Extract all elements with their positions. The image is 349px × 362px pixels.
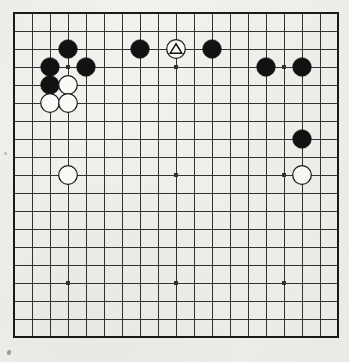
white-stone[interactable] [59, 166, 78, 185]
go-board[interactable] [0, 0, 349, 362]
stone-black-b-c16-r7[interactable] [293, 130, 312, 149]
black-stone[interactable] [203, 40, 222, 59]
stone-white-w-c16-r9[interactable] [293, 166, 312, 185]
black-stone[interactable] [41, 76, 60, 95]
white-stone[interactable] [41, 94, 60, 113]
black-stone[interactable] [293, 130, 312, 149]
stone-black-b-c14-r3[interactable] [257, 58, 276, 77]
stone-white-w-c3-r5[interactable] [59, 94, 78, 113]
black-stone[interactable] [257, 58, 276, 77]
black-stone[interactable] [131, 40, 150, 59]
stone-white-w-c3-r4[interactable] [59, 76, 78, 95]
stone-black-b-c2-r3[interactable] [41, 58, 60, 77]
star-point [174, 65, 178, 69]
go-board-canvas[interactable] [0, 0, 349, 362]
white-stone[interactable] [293, 166, 312, 185]
stone-black-b-c4-r3[interactable] [77, 58, 96, 77]
black-stone[interactable] [293, 58, 312, 77]
star-point [282, 281, 286, 285]
stone-black-b-c2-r4[interactable] [41, 76, 60, 95]
star-point [66, 65, 70, 69]
stone-black-b-c16-r3[interactable] [293, 58, 312, 77]
star-point [174, 281, 178, 285]
stone-white-w-c9-r2[interactable] [167, 40, 186, 59]
stone-white-w-c2-r5[interactable] [41, 94, 60, 113]
diagram-page [0, 0, 349, 362]
black-stone[interactable] [41, 58, 60, 77]
star-point [282, 173, 286, 177]
black-stone[interactable] [77, 58, 96, 77]
stone-white-w-c3-r9[interactable] [59, 166, 78, 185]
white-stone[interactable] [59, 94, 78, 113]
stone-black-b-c11-r2[interactable] [203, 40, 222, 59]
white-stone[interactable] [59, 76, 78, 95]
stone-black-b-c7-r2[interactable] [131, 40, 150, 59]
stone-black-b-c3-r2[interactable] [59, 40, 78, 59]
star-point [282, 65, 286, 69]
star-point [174, 173, 178, 177]
black-stone[interactable] [59, 40, 78, 59]
star-point [66, 281, 70, 285]
